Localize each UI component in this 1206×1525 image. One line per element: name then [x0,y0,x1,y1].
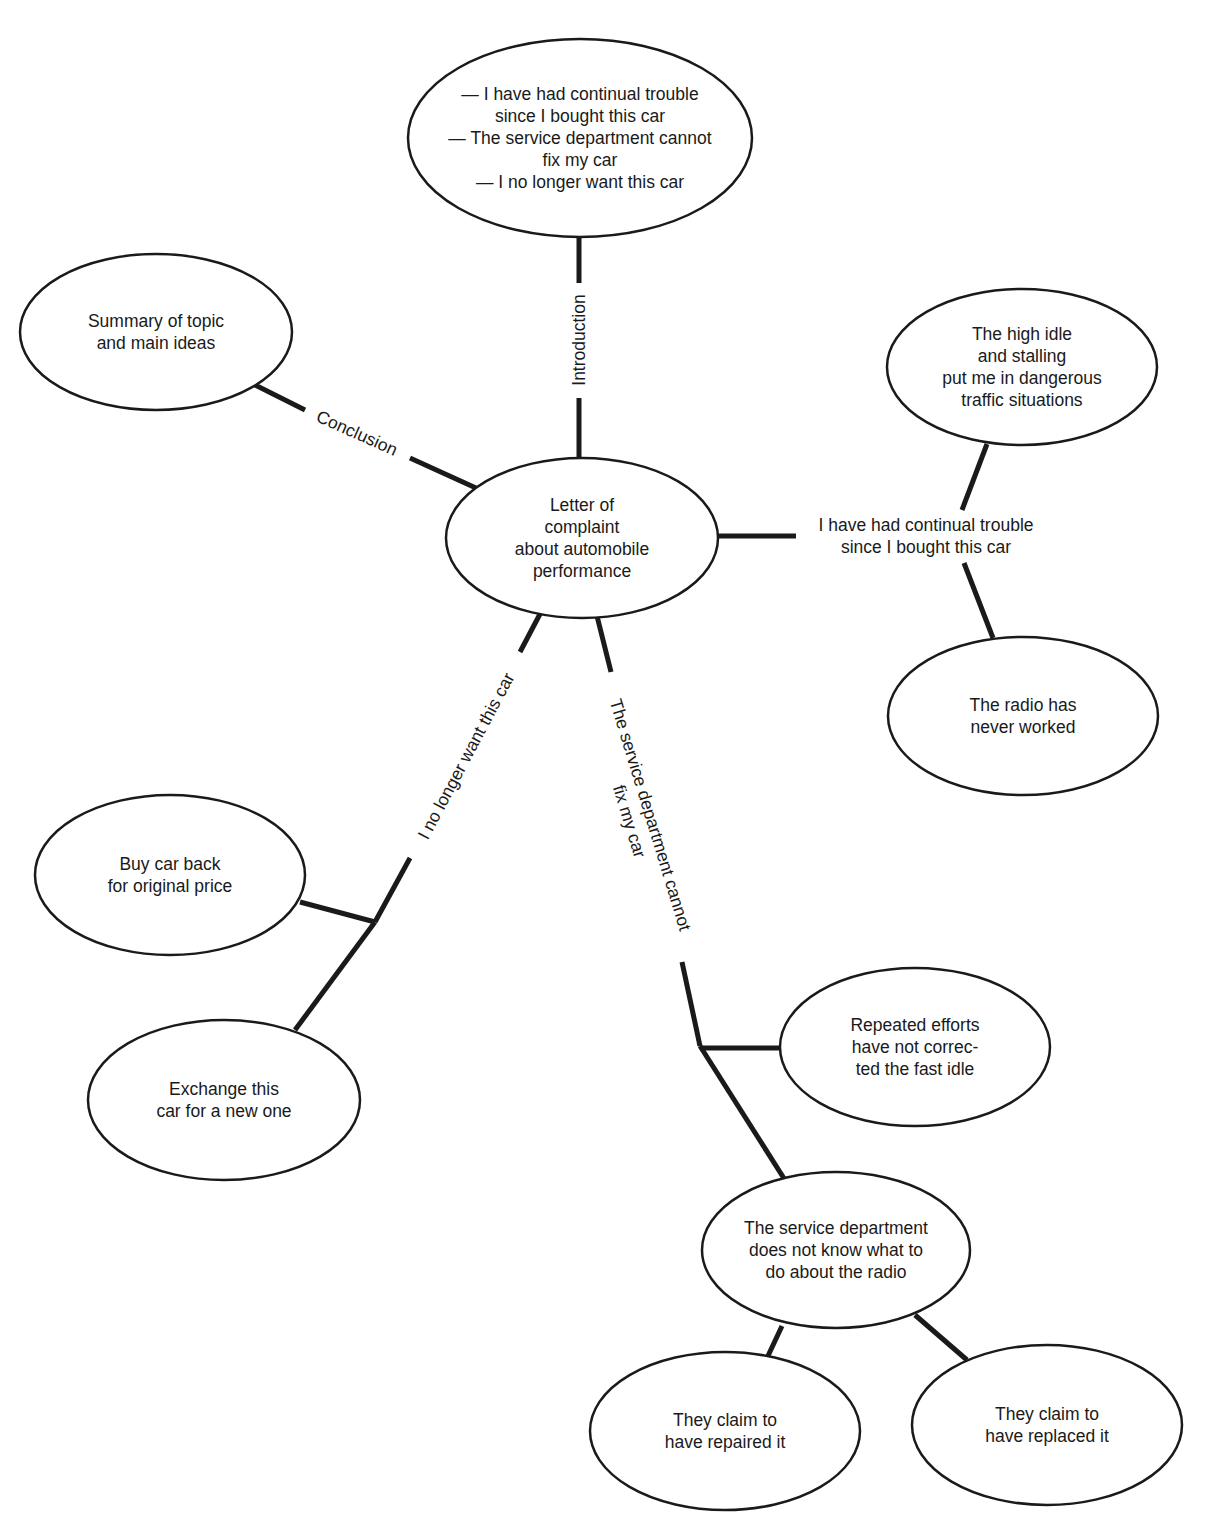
edge-trouble-radio [964,563,993,638]
edge-trouble-high-idle [962,444,987,510]
node-radio-never-worked: The radio has never worked [969,694,1076,738]
node-ellipses [20,39,1182,1510]
mind-map-diagram: — I have had continual trouble since I b… [0,0,1206,1525]
node-high-idle: The high idle and stalling put me in dan… [942,323,1102,411]
edge-buy-back [300,902,375,922]
node-exchange: Exchange this car for a new one [156,1078,291,1122]
edge-conclusion-right [410,458,476,488]
node-replaced: They claim to have replaced it [985,1403,1109,1447]
node-buy-back: Buy car back for original price [108,853,233,897]
edge-no-longer-bottom [375,858,410,922]
edge-repaired [767,1326,782,1358]
edge-service-bottom [682,962,700,1046]
node-introduction-points: — I have had continual trouble since I b… [448,83,711,193]
node-center-topic: Letter of complaint about automobile per… [515,494,649,582]
edge-exchange [295,922,375,1030]
edge-label-trouble: I have had continual trouble since I bou… [818,514,1033,558]
node-repeated-efforts: Repeated efforts have not correc- ted th… [850,1014,979,1080]
edge-service-top [597,616,611,672]
node-repaired: They claim to have repaired it [665,1409,786,1453]
edge-label-introduction: Introduction [568,294,590,385]
edge-replaced [915,1315,967,1360]
edge-no-longer-top [520,614,540,652]
node-service-radio: The service department does not know wha… [744,1217,928,1283]
node-conclusion-summary: Summary of topic and main ideas [88,310,224,354]
edge-conclusion-left [255,385,305,410]
edge-service-radio [700,1046,785,1180]
